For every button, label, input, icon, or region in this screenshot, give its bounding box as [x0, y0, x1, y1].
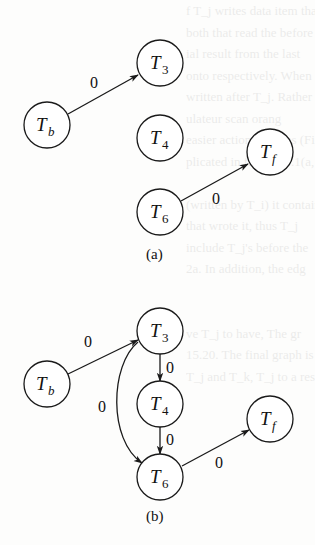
- node-t4: T 4: [137, 115, 183, 161]
- node-tf: T f: [247, 129, 293, 175]
- node-t6: T 6: [137, 454, 183, 500]
- node-t3: T 3: [137, 40, 183, 86]
- precedence-graphs: 0 0 T b T 3 T 4 T 6: [0, 0, 315, 545]
- svg-text:T: T: [36, 114, 48, 135]
- svg-text:3: 3: [162, 330, 169, 345]
- svg-text:4: 4: [162, 137, 169, 152]
- edge-label-t3-t4: 0: [166, 359, 174, 376]
- diagram-b: 0 0 0 0 0 T b T 3 T 4: [24, 308, 293, 525]
- svg-text:b: b: [48, 383, 55, 398]
- svg-text:T: T: [150, 127, 162, 148]
- node-tb: T b: [24, 102, 70, 148]
- edge-label-t6-tf: 0: [215, 454, 223, 471]
- svg-text:T: T: [150, 52, 162, 73]
- node-tb: T b: [24, 361, 70, 407]
- svg-text:T: T: [260, 141, 272, 162]
- svg-text:6: 6: [162, 211, 169, 226]
- node-t3: T 3: [137, 308, 183, 354]
- node-t4: T 4: [137, 381, 183, 427]
- book-page: f T_j writes data item tha both that rea…: [0, 0, 315, 545]
- caption-a: (a): [146, 246, 163, 263]
- svg-text:T: T: [36, 373, 48, 394]
- svg-text:4: 4: [162, 403, 169, 418]
- svg-text:6: 6: [162, 476, 169, 491]
- edge-label-t6-tf: 0: [212, 190, 220, 207]
- edge-tb-t3: [68, 340, 138, 374]
- edge-label-tb-t3: 0: [84, 333, 92, 350]
- edge-tb-t3: [68, 75, 138, 114]
- svg-text:T: T: [150, 201, 162, 222]
- node-t6: T 6: [137, 189, 183, 235]
- svg-text:T: T: [260, 408, 272, 429]
- edge-label-t3-t6: 0: [98, 398, 106, 415]
- node-tf: T f: [247, 396, 293, 442]
- edge-label-t4-t6: 0: [166, 431, 174, 448]
- edge-label-tb-t3: 0: [90, 74, 98, 91]
- svg-text:T: T: [150, 393, 162, 414]
- svg-text:T: T: [150, 320, 162, 341]
- svg-text:b: b: [48, 124, 55, 139]
- diagram-a: 0 0 T b T 3 T 4 T 6: [24, 40, 293, 263]
- svg-text:3: 3: [162, 62, 169, 77]
- svg-text:T: T: [150, 466, 162, 487]
- caption-b: (b): [146, 508, 164, 525]
